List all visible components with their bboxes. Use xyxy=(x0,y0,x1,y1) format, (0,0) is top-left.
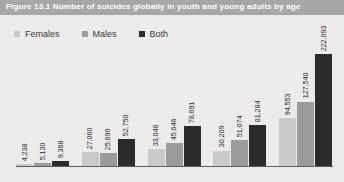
bar-males-3[interactable]: 45,646 xyxy=(166,45,183,166)
bar-value-label: 25,690 xyxy=(105,128,112,150)
bar-value-label: 45,646 xyxy=(170,118,177,140)
bar-females-1[interactable]: 4,238 xyxy=(16,45,33,166)
figure-title-bar: Figure 13.1 Number of suicides globally … xyxy=(0,0,344,15)
bar-value-label: 127,540 xyxy=(302,73,309,99)
bar-both-5[interactable]: 222,093 xyxy=(315,45,332,166)
bar-rect xyxy=(82,152,99,166)
bar-group: 27,06025,69052,750 xyxy=(82,45,135,166)
bar-rect xyxy=(249,125,266,166)
bar-both-3[interactable]: 78,691 xyxy=(184,45,201,166)
bar-rect xyxy=(279,118,296,166)
bar-males-5[interactable]: 127,540 xyxy=(297,45,314,166)
bar-value-label: 9,368 xyxy=(57,141,64,159)
bar-rect xyxy=(213,151,230,166)
bar-rect xyxy=(315,54,332,166)
legend-swatch-females xyxy=(14,31,20,37)
legend-item-females[interactable]: Females xyxy=(14,30,60,39)
bar-value-label: 27,060 xyxy=(87,128,94,150)
page-title: Figure 13.1 Number of suicides globally … xyxy=(6,3,301,11)
bar-groups: 4,2385,1309,36827,06025,69052,75033,0464… xyxy=(16,45,332,166)
bar-rect xyxy=(100,153,117,166)
legend-swatch-both xyxy=(139,31,145,37)
legend-label-males: Males xyxy=(93,30,117,39)
figure-container: Figure 13.1 Number of suicides globally … xyxy=(0,0,344,182)
bar-males-1[interactable]: 5,130 xyxy=(34,45,51,166)
bar-group: 30,20951,07481,284 xyxy=(213,45,266,166)
bar-females-4[interactable]: 30,209 xyxy=(213,45,230,166)
legend-label-both: Both xyxy=(150,30,169,39)
bar-value-label: 94,553 xyxy=(284,94,291,116)
x-axis-line xyxy=(16,166,333,167)
bar-males-2[interactable]: 25,690 xyxy=(100,45,117,166)
plot-area: 4,2385,1309,36827,06025,69052,75033,0464… xyxy=(16,45,332,166)
bar-both-2[interactable]: 52,750 xyxy=(118,45,135,166)
bar-group: 33,04645,64678,691 xyxy=(148,45,201,166)
bar-value-label: 30,209 xyxy=(218,126,225,148)
legend-item-males[interactable]: Males xyxy=(82,30,117,39)
chart-body: FemalesMalesBoth 4,2385,1309,36827,06025… xyxy=(0,15,344,182)
bar-both-4[interactable]: 81,284 xyxy=(249,45,266,166)
legend-swatch-males xyxy=(82,31,88,37)
legend-label-females: Females xyxy=(25,30,60,39)
bar-value-label: 51,074 xyxy=(236,116,243,138)
chart-legend: FemalesMalesBoth xyxy=(14,28,190,40)
bar-value-label: 81,284 xyxy=(254,100,261,122)
bar-value-label: 4,238 xyxy=(21,143,28,161)
bar-value-label: 78,691 xyxy=(188,102,195,124)
bar-both-1[interactable]: 9,368 xyxy=(52,45,69,166)
legend-item-both[interactable]: Both xyxy=(139,30,169,39)
bar-rect xyxy=(297,102,314,166)
bar-group: 4,2385,1309,368 xyxy=(16,45,69,166)
bar-value-label: 5,130 xyxy=(39,143,46,161)
bar-rect xyxy=(148,149,165,166)
bar-rect xyxy=(184,126,201,166)
bar-females-3[interactable]: 33,046 xyxy=(148,45,165,166)
bar-rect xyxy=(231,140,248,166)
bar-value-label: 52,750 xyxy=(123,115,130,137)
bar-group: 94,553127,540222,093 xyxy=(279,45,332,166)
bar-females-5[interactable]: 94,553 xyxy=(279,45,296,166)
bar-value-label: 222,093 xyxy=(320,25,327,51)
bar-rect xyxy=(166,143,183,166)
bar-value-label: 33,046 xyxy=(152,125,159,147)
bar-males-4[interactable]: 51,074 xyxy=(231,45,248,166)
bar-rect xyxy=(118,139,135,166)
bar-females-2[interactable]: 27,060 xyxy=(82,45,99,166)
